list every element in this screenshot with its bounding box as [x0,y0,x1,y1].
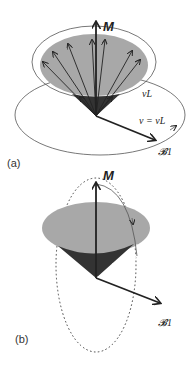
frequency-label: ν = νL [139,115,166,126]
b1-label-b: 𝓑1 [158,317,172,328]
panel-a: M 𝓑1 νL ν = νL (a) [7,19,185,169]
panel-label-b: (b) [15,333,28,345]
larmor-label: νL [142,88,152,99]
m-label-b: M [103,168,115,183]
nmr-precession-diagram: M 𝓑1 νL ν = νL (a) M 𝓑1 (b) [0,0,192,367]
b1-vector-b [96,278,160,303]
panel-label-a: (a) [7,157,20,169]
panel-b: M 𝓑1 (b) [15,168,172,352]
m-label-a: M [103,19,115,34]
b1-label-a: 𝓑1 [158,146,172,157]
cone-top [40,34,148,96]
